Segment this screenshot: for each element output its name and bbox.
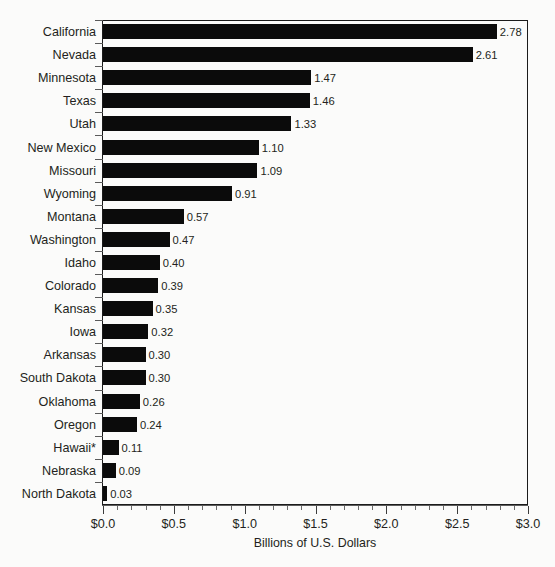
x-axis-minor-tick — [401, 506, 402, 510]
x-axis-minor-tick — [117, 506, 118, 510]
x-axis-tick-label: $1.0 — [232, 518, 257, 531]
y-axis-tick — [95, 436, 103, 437]
x-axis-major-tick — [528, 506, 529, 514]
bar — [103, 24, 497, 39]
x-axis-minor-tick — [202, 506, 203, 510]
x-axis-minor-tick — [372, 506, 373, 510]
bar — [103, 186, 232, 201]
x-axis-minor-tick — [500, 506, 501, 510]
category-label: California — [0, 26, 96, 39]
y-axis-tick — [95, 459, 103, 460]
bar — [103, 463, 116, 478]
bar — [103, 394, 140, 409]
bar-value-label: 0.09 — [119, 466, 141, 477]
bar-value-label: 0.30 — [149, 373, 171, 384]
bar-value-label: 1.47 — [314, 73, 336, 84]
bar-value-label: 1.33 — [294, 119, 316, 130]
bar-rows-container: California2.78Nevada2.61Minnesota1.47Tex… — [0, 20, 555, 505]
x-axis-major-tick — [386, 506, 387, 514]
y-axis-tick — [95, 251, 103, 252]
bar — [103, 255, 160, 270]
x-axis-minor-tick — [231, 506, 232, 510]
bar-value-label: 0.03 — [110, 489, 132, 500]
x-axis-minor-tick — [344, 506, 345, 510]
x-axis-minor-tick — [358, 506, 359, 510]
category-label: Texas — [0, 95, 96, 108]
bar — [103, 163, 257, 178]
bar — [103, 116, 291, 131]
category-label: New Mexico — [0, 142, 96, 155]
x-axis-minor-tick — [259, 506, 260, 510]
x-axis-minor-tick — [273, 506, 274, 510]
bar — [103, 370, 146, 385]
bar — [103, 93, 310, 108]
bar-value-label: 0.26 — [143, 397, 165, 408]
bar-value-label: 2.61 — [476, 50, 498, 61]
category-label: Missouri — [0, 165, 96, 178]
y-axis-tick — [95, 413, 103, 414]
y-axis-tick — [95, 228, 103, 229]
x-axis-tick-label: $0.0 — [91, 518, 116, 531]
bar — [103, 440, 119, 455]
category-label: Iowa — [0, 326, 96, 339]
y-axis-tick — [95, 182, 103, 183]
bar — [103, 70, 311, 85]
bar-value-label: 0.24 — [140, 420, 162, 431]
x-axis-minor-tick — [415, 506, 416, 510]
x-axis-major-tick — [316, 506, 317, 514]
bar-value-label: 0.47 — [173, 235, 195, 246]
bar-value-label: 0.57 — [187, 212, 209, 223]
category-label: Washington — [0, 234, 96, 247]
y-axis-tick — [95, 482, 103, 483]
bar — [103, 486, 107, 501]
y-axis-tick — [95, 320, 103, 321]
y-axis-tick — [95, 390, 103, 391]
category-label: Nebraska — [0, 465, 96, 478]
x-axis-title: Billions of U.S. Dollars — [102, 537, 528, 549]
bar-value-label: 1.46 — [313, 96, 335, 107]
category-label: Oregon — [0, 419, 96, 432]
y-axis-tick — [95, 135, 103, 136]
bar — [103, 324, 148, 339]
x-axis-tick-label: $1.5 — [303, 518, 328, 531]
x-axis-minor-tick — [188, 506, 189, 510]
y-axis-tick — [95, 159, 103, 160]
y-axis-tick — [95, 274, 103, 275]
category-label: Minnesota — [0, 72, 96, 85]
x-axis-minor-tick — [443, 506, 444, 510]
category-label: Nevada — [0, 49, 96, 62]
bar-value-label: 0.11 — [122, 443, 143, 454]
category-label: North Dakota — [0, 488, 96, 501]
x-axis-minor-tick — [131, 506, 132, 510]
x-axis-major-tick — [457, 506, 458, 514]
x-axis-minor-tick — [471, 506, 472, 510]
x-axis-tick-label: $3.0 — [516, 518, 541, 531]
bar-value-label: 0.30 — [149, 350, 171, 361]
bar — [103, 347, 146, 362]
y-axis-tick — [95, 343, 103, 344]
category-label: Utah — [0, 118, 96, 131]
bar — [103, 301, 153, 316]
x-axis-tick-label: $2.5 — [445, 518, 470, 531]
bar-value-label: 0.91 — [235, 189, 257, 200]
bar-value-label: 0.32 — [151, 327, 173, 338]
x-axis-tick-label: $0.5 — [162, 518, 187, 531]
y-axis-tick — [95, 20, 103, 21]
bar-value-label: 0.35 — [156, 304, 178, 315]
x-axis-minor-tick — [429, 506, 430, 510]
bar — [103, 140, 259, 155]
x-axis-minor-tick — [301, 506, 302, 510]
x-axis-minor-tick — [287, 506, 288, 510]
x-axis-minor-tick — [330, 506, 331, 510]
bar-value-label: 1.10 — [262, 143, 284, 154]
y-axis-tick — [95, 89, 103, 90]
y-axis-tick — [95, 43, 103, 44]
bar-value-label: 0.40 — [163, 258, 185, 269]
category-label: Arkansas — [0, 349, 96, 362]
chart-page: California2.78Nevada2.61Minnesota1.47Tex… — [0, 0, 555, 567]
category-label: Idaho — [0, 257, 96, 270]
category-label: South Dakota — [0, 372, 96, 385]
category-label: Montana — [0, 211, 96, 224]
x-axis-minor-tick — [160, 506, 161, 510]
bar-value-label: 1.09 — [260, 166, 282, 177]
